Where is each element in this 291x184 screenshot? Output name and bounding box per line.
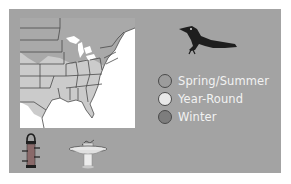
range-map-card: Spring/Summer Year-Round Winter <box>9 9 281 173</box>
legend-label: Year-Round <box>178 92 243 106</box>
us-east-map-graphic <box>20 18 135 128</box>
range-legend: Spring/Summer Year-Round Winter <box>158 72 269 126</box>
legend-label: Spring/Summer <box>178 74 269 88</box>
year-round-swatch-icon <box>158 92 172 106</box>
grackle-silhouette-icon <box>177 24 239 56</box>
legend-label: Winter <box>178 110 217 124</box>
birdbath-icon <box>68 137 108 169</box>
range-map <box>20 18 135 128</box>
legend-item-spring-summer: Spring/Summer <box>158 72 269 90</box>
spring-summer-swatch-icon <box>158 74 172 88</box>
legend-item-winter: Winter <box>158 108 269 126</box>
tube-feeder-icon <box>22 133 40 169</box>
winter-swatch-icon <box>158 110 172 124</box>
legend-item-year-round: Year-Round <box>158 90 269 108</box>
